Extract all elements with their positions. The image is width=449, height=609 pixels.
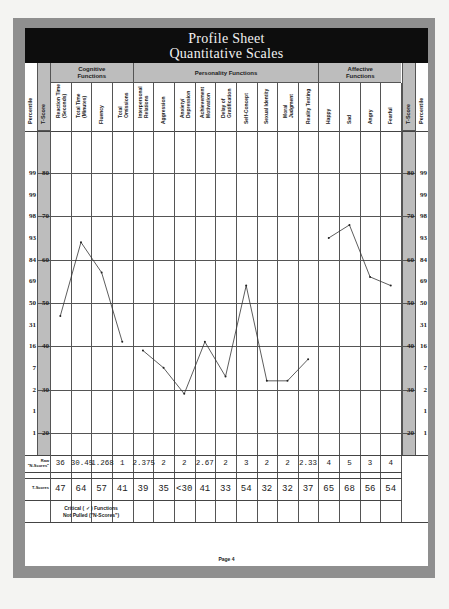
data-point	[307, 358, 309, 360]
t-score-cell[interactable]: 54	[380, 478, 401, 500]
raw-score-cell[interactable]: 4	[380, 455, 401, 472]
percentile-tick-right: 50	[415, 299, 427, 307]
percentile-tick-left: 50	[24, 299, 36, 307]
percentile-tick-left: 2	[24, 386, 36, 394]
t-score-cell[interactable]: 57	[91, 478, 112, 500]
t-score-cell[interactable]: 41	[195, 478, 216, 500]
t-tick-right: 20	[402, 429, 414, 437]
percentile-tick-right: 7	[415, 364, 427, 372]
data-point	[328, 237, 330, 239]
raw-score-cell[interactable]: 4	[318, 455, 339, 472]
group-header-affective: Affective Functions	[318, 63, 401, 83]
t-score-cell[interactable]: 68	[339, 478, 360, 500]
series-line-personality	[143, 286, 308, 394]
percentile-header-left-text: Percentile	[28, 97, 34, 123]
percentile-tick-right: 2	[415, 386, 427, 394]
t-tick-left: 60	[37, 256, 49, 264]
raw-score-cell[interactable]: 36	[50, 455, 71, 472]
raw-score-cell[interactable]: 1.268	[91, 455, 112, 472]
title-line-1: Profile Sheet	[25, 31, 428, 46]
gridline	[37, 173, 415, 174]
t-score-cell[interactable]: <30	[174, 478, 195, 500]
group-header-personality: Personality Functions	[133, 63, 319, 83]
t-tick-right: 60	[402, 256, 414, 264]
gridline	[37, 390, 415, 391]
gridline	[37, 216, 415, 217]
percentile-tick-left: 93	[24, 234, 36, 242]
scale-header: Anxiety/ Depression	[174, 83, 195, 131]
t-score-cell[interactable]: 64	[71, 478, 92, 500]
raw-score-cell[interactable]: 2	[215, 455, 236, 472]
data-point	[142, 350, 144, 352]
data-point	[225, 376, 227, 378]
scale-header: Happy	[318, 83, 339, 131]
gridline	[37, 433, 415, 434]
raw-score-label: Raw "N-Scores"	[25, 458, 49, 468]
t-score-header-left: T-Score	[37, 63, 50, 131]
raw-score-cell[interactable]: 2	[174, 455, 195, 472]
scale-header: Achievement Motivation	[195, 83, 216, 131]
scale-label: Reality Testing	[306, 88, 312, 123]
raw-score-cell[interactable]: 2	[257, 455, 278, 472]
raw-score-cell[interactable]: 2.67	[195, 455, 216, 472]
raw-score-cell[interactable]: 3	[236, 455, 257, 472]
t-score-cell[interactable]: 56	[360, 478, 381, 500]
t-score-cell[interactable]: 47	[50, 478, 71, 500]
data-point	[245, 285, 247, 287]
title-line-2: Quantitative Scales	[25, 46, 428, 61]
raw-score-cell[interactable]: 30.45	[71, 455, 92, 472]
scale-label: Interpersonal Relations	[138, 86, 149, 118]
t-score-cell[interactable]: 32	[277, 478, 298, 500]
gridline	[37, 346, 415, 347]
raw-score-cell[interactable]: 5	[339, 455, 360, 472]
t-score-cell[interactable]: 32	[257, 478, 278, 500]
group-header-cognitive: Cognitive Functions	[50, 63, 133, 83]
t-tick-right: 80	[402, 169, 414, 177]
data-point	[163, 367, 165, 369]
t-score-cell[interactable]: 39	[133, 478, 154, 500]
t-score-header-right: T-Score	[402, 63, 415, 131]
scale-label: Self-Concept	[244, 93, 250, 124]
percentile-tick-right: 16	[415, 342, 427, 350]
percentile-tick-right: 69	[415, 277, 427, 285]
scale-label: Aggression	[161, 96, 167, 124]
t-tick-left: 50	[37, 299, 49, 307]
t-score-cell[interactable]: 54	[236, 478, 257, 500]
t-tick-left: 20	[37, 429, 49, 437]
raw-score-cell[interactable]: 3	[360, 455, 381, 472]
t-score-cell[interactable]: 33	[215, 478, 236, 500]
t-score-header-left-text: T-Score	[41, 103, 47, 123]
data-point	[266, 380, 268, 382]
data-point	[121, 341, 123, 343]
percentile-tick-right: 1	[415, 407, 427, 415]
scale-header: Reaction Time (Seconds)	[50, 83, 71, 131]
raw-score-cell[interactable]: 2	[153, 455, 174, 472]
t-score-cell[interactable]: 35	[153, 478, 174, 500]
percentile-tick-left: 31	[24, 321, 36, 329]
t-score-cell[interactable]: 37	[298, 478, 319, 500]
scale-header: Sad	[339, 83, 360, 131]
gridline	[37, 260, 415, 261]
header-rule	[25, 131, 428, 132]
t-tick-right: 40	[402, 342, 414, 350]
data-point	[183, 393, 185, 395]
scale-header: Angry	[360, 83, 381, 131]
raw-score-cell[interactable]: 2.375	[133, 455, 154, 472]
raw-score-cell[interactable]: 1	[112, 455, 133, 472]
data-point	[286, 380, 288, 382]
scale-header: Moral Judgment	[277, 83, 298, 131]
t-tick-right: 70	[402, 212, 414, 220]
raw-score-cell[interactable]: 2.33	[298, 455, 319, 472]
scale-header: Interpersonal Relations	[133, 83, 154, 131]
data-point	[348, 224, 350, 226]
scale-header: Fluency	[91, 83, 112, 131]
raw-score-cell[interactable]: 2	[277, 455, 298, 472]
t-tick-right: 50	[402, 299, 414, 307]
t-score-cell[interactable]: 41	[112, 478, 133, 500]
data-point	[59, 315, 61, 317]
percentile-header-right-text: Percentile	[419, 97, 425, 123]
scale-header: Total Time (Minutes)	[71, 83, 92, 131]
data-point	[390, 285, 392, 287]
scale-header: Reality Testing	[298, 83, 319, 131]
t-score-cell[interactable]: 65	[318, 478, 339, 500]
